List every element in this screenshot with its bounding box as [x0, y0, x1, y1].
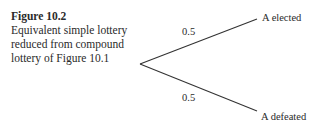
outcome-elected-label: A elected [262, 12, 301, 23]
branch-elected-probability: 0.5 [182, 26, 195, 37]
branch-defeated-line [140, 64, 257, 111]
branch-elected-line [140, 19, 257, 64]
outcome-defeated-label: A defeated [261, 111, 306, 122]
branch-defeated-probability: 0.5 [182, 92, 195, 103]
